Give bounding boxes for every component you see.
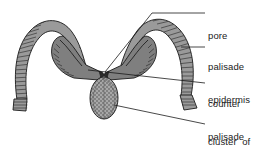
label-palisade-line-1: palisade (208, 61, 250, 72)
label-counter-line-1: counter (208, 98, 244, 109)
right-arch-tail (178, 95, 199, 110)
tracheid-cluster-oval (90, 77, 118, 119)
left-arch-tail (12, 99, 28, 111)
figure-root: pore palisade epidermis counter palisade… (0, 0, 263, 150)
label-tracheids-line-1: cluster of (208, 136, 250, 147)
label-cluster-of-tracheids: cluster of tracheids (208, 114, 250, 150)
